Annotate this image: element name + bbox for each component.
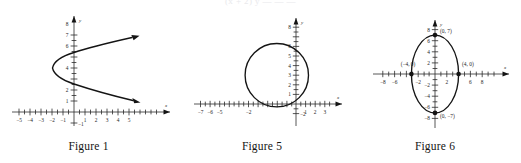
figure-6-y-axis-label: y [439, 22, 443, 27]
figure-6-caption: Figure 6 [349, 140, 521, 152]
figure-5-plot: −7 −6 −5 −2 1 2 3 −2 1 2 3 4 5 6 8 [176, 8, 348, 130]
figure-5-y-axis-label: y [300, 20, 304, 25]
bottom-vertex-dot [433, 111, 438, 116]
figure-1-x-axis-label: x [164, 103, 168, 108]
figure-6: −8 −6 −2 2 6 8 −8 −6 −4 −2 2 4 6 8 [349, 8, 521, 130]
figure-6-x-axis-label: x [503, 65, 507, 70]
y-tick-label: −8 [424, 115, 430, 121]
figure-sheet: (x + 2) y — — — [0, 0, 521, 163]
x-tick-label: 2 [314, 109, 317, 115]
y-tick-label: 2 [427, 60, 430, 66]
left-vertex-dot [409, 72, 414, 77]
y-tick-label: 8 [288, 24, 291, 30]
y-tick-label: 4 [288, 63, 291, 69]
y-tick-label: 4 [427, 49, 430, 55]
y-tick-label: 5 [288, 53, 291, 59]
x-tick-label: −1 [60, 117, 66, 123]
figure-5-caption: Figure 5 [176, 140, 348, 152]
x-tick-label: −3 [38, 117, 44, 123]
figure-1-plot: −5 −4 −3 −2 −1 1 2 3 4 5 −1 1 2 4 6 [2, 8, 175, 130]
figure-1-axes [12, 16, 170, 126]
y-tick-label: −2 [300, 111, 306, 117]
x-tick-label: −6 [207, 109, 213, 115]
y-tick-label: −4 [424, 93, 430, 99]
x-tick-label: 6 [469, 79, 472, 85]
y-tick-label: 8 [66, 21, 69, 27]
y-tick-label: 6 [427, 38, 430, 44]
y-tick-label: 1 [288, 91, 291, 97]
left-vertex-label: (−4, 0) [401, 61, 416, 68]
cut-off-text-line: (x + 2) y — — — [0, 0, 521, 7]
x-tick-label: 8 [481, 79, 484, 85]
y-tick-label: 6 [66, 43, 69, 49]
y-tick-label: −2 [424, 82, 430, 88]
top-vertex-dot [433, 33, 438, 38]
figure-1: −5 −4 −3 −2 −1 1 2 3 4 5 −1 1 2 4 6 [2, 8, 175, 130]
x-tick-label: −8 [380, 79, 386, 85]
x-tick-label: 4 [117, 117, 120, 123]
figure-1-x-tick-labels: −5 −4 −3 −2 −1 1 2 3 4 5 [16, 117, 131, 123]
x-tick-label: 3 [106, 117, 109, 123]
figure-1-y-axis-label: y [78, 18, 82, 23]
x-tick-label: −5 [217, 109, 223, 115]
x-tick-label: −2 [246, 109, 252, 115]
x-tick-label: 2 [95, 117, 98, 123]
figure-1-caption: Figure 1 [2, 140, 175, 152]
figure-5-x-axis-label: x [336, 95, 340, 100]
x-tick-label: −2 [49, 117, 55, 123]
y-tick-label: 1 [66, 98, 69, 104]
y-tick-label: 3 [288, 72, 291, 78]
x-tick-label: −7 [198, 109, 204, 115]
y-tick-label: 8 [427, 27, 430, 33]
y-tick-label: 2 [288, 82, 291, 88]
right-vertex-dot [456, 72, 461, 77]
figure-5: −7 −6 −5 −2 1 2 3 −2 1 2 3 4 5 6 8 [176, 8, 348, 130]
y-tick-label: −1 [78, 121, 84, 127]
x-tick-label: −5 [16, 117, 22, 123]
figure-6-plot: −8 −6 −2 2 6 8 −8 −6 −4 −2 2 4 6 8 [349, 8, 521, 130]
y-tick-label: 7 [66, 32, 69, 38]
y-tick-label: 2 [66, 87, 69, 93]
x-tick-label: 2 [445, 79, 448, 85]
bottom-vertex-label: (0, −7) [440, 113, 455, 120]
x-tick-label: −6 [392, 79, 398, 85]
x-tick-label: 1 [84, 117, 87, 123]
top-vertex-label: (0, 7) [440, 28, 452, 35]
y-tick-label: 4 [66, 65, 69, 71]
figure-5-x-tick-labels: −7 −6 −5 −2 1 2 3 [198, 109, 327, 115]
x-tick-label: −2 [415, 79, 421, 85]
right-vertex-label: (4, 0) [462, 61, 474, 68]
x-tick-label: 5 [128, 117, 131, 123]
figure-6-x-tick-labels: −8 −6 −2 2 6 8 [380, 79, 484, 85]
x-tick-label: 3 [323, 109, 326, 115]
x-tick-label: −4 [27, 117, 33, 123]
